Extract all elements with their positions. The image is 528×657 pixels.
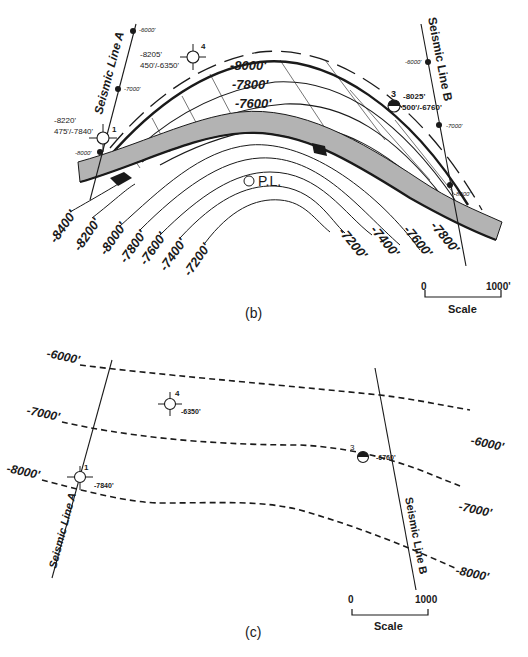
- shotpoint-label: -7000': [124, 86, 141, 92]
- shotpoint-icon: [130, 28, 136, 34]
- well-id: 4: [175, 389, 180, 398]
- well-1-c: 1 -7840': [67, 463, 114, 490]
- seismic-line-a-label-c: Seismic Line A: [46, 491, 78, 569]
- fault-throw-marker-left: [110, 172, 132, 186]
- well-value: 500'/-6760': [402, 103, 442, 112]
- shotpoint-label: -6000': [139, 27, 156, 33]
- contour-label: -6000': [469, 433, 506, 454]
- shotpoint-icon: [115, 86, 121, 92]
- well-id: 1: [112, 125, 117, 134]
- scale-label: Scale: [448, 303, 477, 315]
- scale-end: 1000: [415, 594, 438, 605]
- seismic-line-a-label: Seismic Line A: [91, 30, 127, 116]
- panel-b: P.L. -6000' -7000' -8000' Seismic Line A…: [46, 16, 510, 321]
- well-value: 450'/-6350': [140, 61, 180, 70]
- well-value: -6760': [376, 454, 396, 461]
- pl-label: P.L.: [258, 173, 281, 189]
- seismic-line-b-c: [375, 368, 416, 590]
- contour-label: -8000': [230, 58, 267, 73]
- panel-b-caption: (b): [245, 305, 262, 321]
- scale-bar-b: 0 1000' Scale: [421, 281, 511, 315]
- geologic-map-figure: P.L. -6000' -7000' -8000' Seismic Line A…: [0, 0, 528, 657]
- well-value: 475'/-7840': [54, 127, 94, 136]
- well-1-b: 1 -8220' 475'/-7840': [54, 116, 117, 152]
- contour-label: -7400': [368, 222, 403, 260]
- scale-start: 0: [348, 594, 354, 605]
- scale-label: Scale: [374, 620, 403, 632]
- shotpoint-icon: [447, 182, 453, 188]
- dry-hole-icon: [75, 472, 86, 483]
- shotpoint-label: -8000': [454, 191, 471, 197]
- scale-end: 1000': [486, 281, 511, 292]
- shotpoint-icon: [97, 149, 103, 155]
- contour-label: -7000': [25, 403, 62, 424]
- well-value: -7840': [94, 482, 114, 489]
- contour-label: -8000': [5, 461, 42, 482]
- contour-label: -7800': [232, 77, 269, 92]
- well-value: -8025': [403, 92, 425, 101]
- shotpoint-label: -6000': [405, 59, 422, 65]
- shotpoint-label: -8000': [75, 150, 92, 156]
- shotpoint-icon: [436, 122, 442, 128]
- scale-start: 0: [421, 281, 427, 292]
- contour-label: -7600': [235, 96, 272, 111]
- contour-label: -8000': [454, 563, 491, 584]
- well-id: 3: [391, 89, 396, 99]
- panel-c-caption: (c): [245, 624, 261, 640]
- shotpoint-icon: [425, 59, 431, 65]
- shotpoint-label: -7000': [446, 123, 463, 129]
- seismic-line-b-label: Seismic Line B: [425, 16, 455, 103]
- well-id: 3: [350, 443, 355, 452]
- well-value: -6350': [181, 408, 201, 415]
- contour-label: -6000': [45, 346, 82, 367]
- dry-hole-icon: [187, 51, 199, 63]
- well-4-c: 4 -6350': [158, 389, 201, 416]
- well-id: 1: [84, 463, 89, 472]
- well-value: -8220': [54, 116, 76, 125]
- well-4-b: 4 -8205' 450'/-6350': [140, 42, 206, 70]
- seismic-line-b-label-c: Seismic Line B: [403, 496, 430, 575]
- pl-marker-icon: [244, 176, 254, 186]
- contour-label: -7000': [457, 499, 494, 520]
- scale-bar-c: 0 1000 Scale: [348, 594, 438, 632]
- dry-hole-icon: [97, 132, 109, 144]
- dry-hole-icon: [165, 399, 176, 410]
- panel-c: Seismic Line A Seismic Line B -6000' -70…: [5, 346, 506, 640]
- well-value: -8205': [140, 50, 162, 59]
- well-id: 4: [201, 42, 206, 51]
